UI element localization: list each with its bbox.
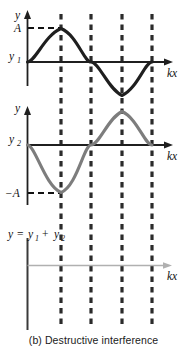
panel1-x-axis-label: kx — [167, 67, 178, 79]
panel-wave-1: y A y 1 kx — [8, 9, 178, 96]
panel1-x-axis-arrowhead — [164, 59, 173, 66]
sum-expression-y1-sub: 1 — [35, 234, 39, 243]
sum-expression-y1: y — [27, 228, 34, 241]
panel2-origin-sublabel: 2 — [17, 139, 21, 148]
panel3-x-axis-arrowhead — [163, 262, 172, 268]
panel2-origin-label: y — [8, 133, 15, 146]
interference-diagram: y A y 1 kx y y 2 −A kx — [0, 0, 187, 355]
figure-caption: (b) Destructive interference — [0, 334, 187, 346]
sum-expression-plus: + — [42, 228, 49, 240]
panel2-y-axis-label: y — [14, 102, 21, 115]
panel1-origin-sublabel: 1 — [17, 56, 21, 65]
panel1-y-axis-arrowhead — [24, 10, 31, 19]
panel2-x-axis-label: kx — [167, 150, 178, 162]
panel1-origin-label: y — [8, 50, 15, 63]
panel3-x-axis-label: kx — [167, 270, 178, 282]
panel1-y-axis-label: y — [14, 9, 21, 22]
panel1-amplitude-label: A — [13, 22, 22, 34]
sum-expression-y2: y — [53, 228, 60, 241]
sum-expression-equals: = — [17, 228, 24, 240]
destructive-interference-figure: y A y 1 kx y y 2 −A kx — [0, 0, 187, 355]
sum-expression-y2-sub: 2 — [61, 234, 65, 243]
panel2-y-axis-arrowhead — [24, 106, 31, 115]
panel2-x-axis-arrowhead — [164, 142, 173, 149]
panel2-amplitude-label: −A — [5, 187, 21, 199]
sum-expression-y: y — [7, 228, 14, 241]
gridline-group — [61, 14, 152, 326]
